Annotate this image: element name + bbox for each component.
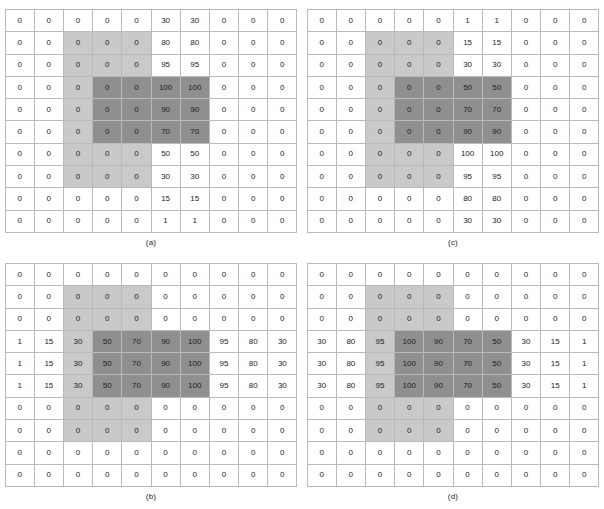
matrix-cell: 30 (268, 353, 297, 375)
matrix-cell: 0 (453, 286, 482, 308)
matrix-cell: 0 (209, 286, 238, 308)
matrix-row: 11530507090100958030 (5, 375, 297, 397)
matrix-grid-a: 0000030300000000080800000000095950000000… (5, 9, 298, 233)
matrix-cell: 0 (336, 10, 365, 32)
panel-caption-a: (a) (146, 238, 156, 247)
matrix-cell: 80 (336, 330, 365, 352)
matrix-cell: 0 (570, 54, 599, 76)
matrix-grid-d: 0000000000000000000000000000003080951009… (307, 263, 600, 487)
matrix-cell: 0 (268, 210, 297, 232)
matrix-cell: 0 (307, 210, 336, 232)
matrix-cell: 0 (570, 420, 599, 442)
matrix-cell: 0 (5, 121, 34, 143)
matrix-cell: 15 (180, 188, 209, 210)
matrix-cell: 0 (151, 420, 180, 442)
matrix-cell: 0 (395, 286, 424, 308)
matrix-cell: 0 (5, 308, 34, 330)
matrix-cell: 0 (482, 464, 511, 486)
matrix-cell: 0 (209, 121, 238, 143)
matrix-cell: 0 (34, 420, 63, 442)
matrix-cell: 0 (482, 420, 511, 442)
matrix-cell: 0 (570, 188, 599, 210)
matrix-row: 000007070000 (5, 121, 297, 143)
matrix-cell: 95 (209, 353, 238, 375)
matrix-cell: 0 (34, 397, 63, 419)
matrix-cell: 0 (541, 397, 570, 419)
matrix-cell: 0 (336, 99, 365, 121)
matrix-cell: 0 (5, 264, 34, 286)
matrix-cell: 0 (541, 210, 570, 232)
matrix-row: 00000100100000 (307, 143, 599, 165)
matrix-cell: 0 (63, 264, 92, 286)
matrix-cell: 0 (5, 54, 34, 76)
matrix-cell: 1 (453, 10, 482, 32)
matrix-cell: 0 (570, 464, 599, 486)
matrix-cell: 100 (180, 353, 209, 375)
matrix-cell: 0 (570, 264, 599, 286)
matrix-cell: 0 (209, 397, 238, 419)
matrix-cell: 0 (307, 286, 336, 308)
matrix-cell: 0 (122, 397, 151, 419)
matrix-cell: 0 (336, 264, 365, 286)
matrix-cell: 0 (307, 188, 336, 210)
matrix-row: 0000011000 (5, 210, 297, 232)
matrix-row: 0000000000 (307, 264, 599, 286)
matrix-cell: 30 (63, 353, 92, 375)
matrix-cell: 0 (239, 54, 268, 76)
matrix-cell: 70 (122, 353, 151, 375)
matrix-cell: 0 (34, 264, 63, 286)
matrix-cell: 0 (570, 143, 599, 165)
matrix-cell: 0 (541, 121, 570, 143)
matrix-grid-b: 0000000000000000000000000000001153050709… (5, 263, 298, 487)
matrix-cell: 0 (424, 420, 453, 442)
matrix-cell: 0 (365, 442, 394, 464)
matrix-cell: 0 (307, 76, 336, 98)
matrix-cell: 0 (93, 32, 122, 54)
matrix-cell: 0 (209, 308, 238, 330)
matrix-cell: 0 (5, 420, 34, 442)
matrix-cell: 15 (151, 188, 180, 210)
matrix-cell: 0 (93, 99, 122, 121)
matrix-cell: 0 (570, 308, 599, 330)
matrix-cell: 0 (511, 166, 540, 188)
matrix-cell: 80 (453, 188, 482, 210)
matrix-cell: 0 (239, 420, 268, 442)
matrix-cell: 0 (209, 76, 238, 98)
matrix-row: 000003030000 (5, 10, 297, 32)
matrix-cell: 0 (268, 420, 297, 442)
matrix-cell: 0 (395, 188, 424, 210)
matrix-cell: 0 (365, 32, 394, 54)
matrix-cell: 0 (268, 10, 297, 32)
matrix-cell: 0 (151, 308, 180, 330)
matrix-cell: 0 (424, 166, 453, 188)
matrix-cell: 0 (424, 464, 453, 486)
matrix-cell: 0 (570, 286, 599, 308)
matrix-cell: 0 (336, 32, 365, 54)
matrix-cell: 30 (482, 54, 511, 76)
matrix-cell: 0 (239, 76, 268, 98)
matrix-row: 0000000000 (5, 420, 297, 442)
matrix-cell: 0 (336, 121, 365, 143)
matrix-cell: 0 (395, 442, 424, 464)
matrix-cell: 0 (541, 464, 570, 486)
matrix-cell: 0 (268, 308, 297, 330)
matrix-row: 30809510090705030151 (307, 330, 599, 352)
matrix-cell: 15 (541, 353, 570, 375)
matrix-cell: 0 (122, 121, 151, 143)
matrix-cell: 0 (570, 76, 599, 98)
matrix-cell: 0 (239, 464, 268, 486)
matrix-cell: 0 (5, 32, 34, 54)
matrix-cell: 0 (336, 76, 365, 98)
matrix-row: 0000000000 (5, 397, 297, 419)
matrix-cell: 30 (511, 375, 540, 397)
matrix-cell: 100 (180, 76, 209, 98)
matrix-row: 000003030000 (307, 210, 599, 232)
matrix-cell: 15 (34, 353, 63, 375)
panel-caption-b: (b) (146, 492, 156, 501)
matrix-cell: 0 (511, 397, 540, 419)
matrix-cell: 70 (453, 99, 482, 121)
matrix-cell: 0 (151, 464, 180, 486)
matrix-cell: 0 (239, 264, 268, 286)
matrix-cell: 0 (307, 264, 336, 286)
matrix-cell: 30 (268, 375, 297, 397)
